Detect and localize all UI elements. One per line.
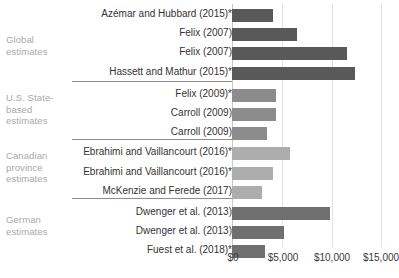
bar-dwenger-2013-b	[232, 226, 284, 239]
x-tick-label: $15,000	[363, 252, 399, 263]
x-tick-label: $5,000	[268, 252, 299, 263]
bar-felix-2007-b	[232, 47, 347, 60]
group-label-canadian: Canadian province estimates	[6, 150, 48, 185]
bar-carroll-2009-b	[232, 127, 267, 140]
group-label-global: Global estimates	[6, 34, 48, 57]
bar-felix-2007-a	[232, 28, 297, 41]
category-label: Hassett and Mathur (2015)*	[109, 66, 232, 78]
bar-carroll-2009-a	[232, 108, 276, 121]
category-label: Ebrahimi and Vaillancourt (2016)*	[83, 166, 232, 178]
gridline-10000	[332, 4, 333, 247]
bar-dwenger-2013-a	[232, 207, 330, 220]
category-label: Fuest et al. (2018)*	[147, 244, 232, 256]
category-label: Dwenger et al. (2013)	[136, 225, 232, 237]
bar-mckenzie-ferede-2017	[232, 186, 262, 199]
group-label-german: German estimates	[6, 214, 48, 237]
bar-hassett-mathur-2015	[232, 67, 355, 80]
category-label: McKenzie and Ferede (2017)	[102, 185, 232, 197]
bar-ebrahimi-vaillancourt-2016-b	[232, 167, 273, 180]
category-label: Dwenger et al. (2013)	[136, 206, 232, 218]
group-separator	[72, 198, 232, 199]
gridline-15000	[381, 4, 382, 247]
category-label: Carroll (2009)	[171, 107, 232, 119]
bar-azemar-hubbard-2015	[232, 9, 273, 22]
group-separator	[72, 139, 232, 140]
group-label-us-state: U.S. State- based estimates	[6, 92, 54, 127]
group-separator	[72, 81, 232, 82]
x-tick-label: $10,000	[314, 252, 350, 263]
category-label: Carroll (2009)	[171, 126, 232, 138]
bar-ebrahimi-vaillancourt-2016-a	[232, 147, 290, 160]
category-label: Azémar and Hubbard (2015)*	[101, 8, 232, 20]
bar-felix-2009	[232, 89, 276, 102]
category-label: Felix (2009)*	[175, 88, 232, 100]
category-label: Felix (2007)	[179, 27, 232, 39]
plot-area	[232, 4, 382, 247]
category-label: Felix (2007)	[179, 46, 232, 58]
x-tick-label: $0	[227, 252, 238, 263]
category-label: Ebrahimi and Vaillancourt (2016)*	[83, 146, 232, 158]
